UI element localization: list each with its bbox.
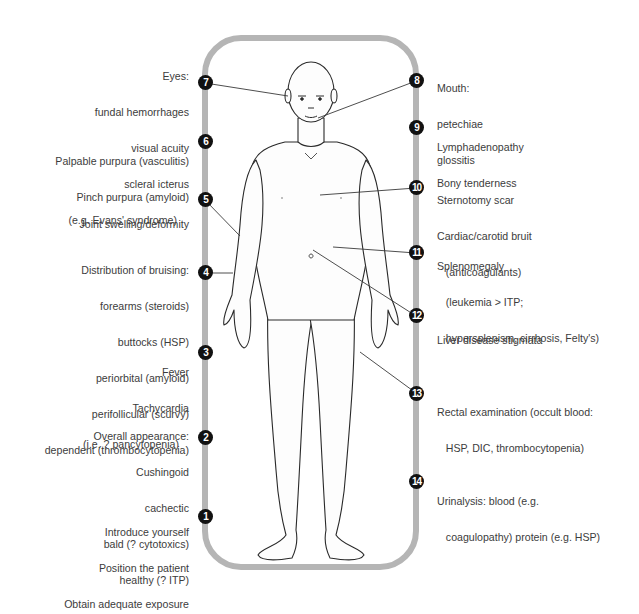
left-arm (224, 160, 263, 348)
head (288, 62, 334, 122)
human-figure (224, 62, 399, 560)
torso (250, 142, 373, 320)
step-badge-14: 14 (409, 474, 424, 489)
label-urinalysis: Urinalysis: blood (e.g. coagulopathy) pr… (437, 471, 600, 555)
step-badge-10: 10 (409, 180, 424, 195)
step-badge-6: 6 (198, 134, 213, 149)
step-badge-2: 2 (198, 430, 213, 445)
right-ear (331, 89, 337, 103)
step-badge-4: 4 (198, 265, 213, 280)
label-liver-disease: Liver disease stigmata (437, 310, 542, 358)
right-arm (359, 160, 398, 348)
step-badge-8: 8 (409, 73, 424, 88)
step-badge-11: 11 (409, 245, 424, 260)
step-badge-13: 13 (409, 386, 424, 401)
step-badge-1: 1 (198, 509, 213, 524)
right-leg (310, 300, 364, 560)
label-rectal-exam: Rectal examination (occult blood: HSP, D… (437, 382, 593, 466)
step-badge-7: 7 (198, 75, 213, 90)
label-joint-swelling: Joint swelling/deformity (79, 194, 189, 242)
left-leg (258, 300, 312, 560)
step-badge-9: 9 (409, 120, 424, 135)
label-introduction: Introduce yourself Position the patient … (64, 502, 189, 614)
step-badge-3: 3 (198, 345, 213, 360)
step-badge-12: 12 (409, 308, 424, 323)
step-badge-5: 5 (198, 192, 213, 207)
